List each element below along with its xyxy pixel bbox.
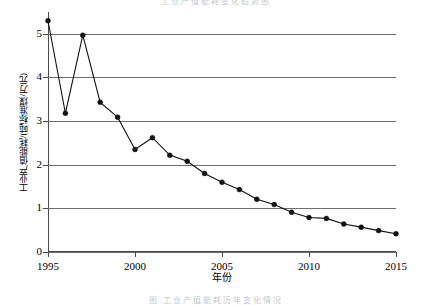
data-point <box>150 135 155 140</box>
data-point <box>341 222 346 227</box>
cropped-caption-top: 工业产值能耗变化趋势图 <box>0 0 431 6</box>
data-point <box>237 187 242 192</box>
x-axis-tick-mark <box>222 252 223 257</box>
y-axis-title-label: 工业产值能耗/(吨标准煤/万元) <box>18 73 28 192</box>
series-markers <box>46 18 399 236</box>
data-point <box>63 111 68 116</box>
x-axis-tick-mark <box>309 252 310 257</box>
data-point <box>220 180 225 185</box>
x-axis-tick-label: 2010 <box>289 260 329 272</box>
data-point <box>167 153 172 158</box>
data-point <box>202 171 207 176</box>
data-point <box>394 231 399 236</box>
x-axis-tick-label: 2000 <box>115 260 155 272</box>
y-axis-tick-label: 2 <box>26 159 42 170</box>
data-point <box>115 115 120 120</box>
data-series-layer <box>48 12 396 252</box>
series-line <box>48 21 396 234</box>
data-point <box>289 210 294 215</box>
data-point <box>359 225 364 230</box>
chart-figure: 工业产值能耗变化趋势图 工业产值能耗/(吨标准煤/万元) 012345 1995… <box>0 0 431 305</box>
data-point <box>46 18 51 23</box>
y-axis-tick-label: 1 <box>26 202 42 213</box>
x-axis-tick-mark <box>396 252 397 257</box>
data-point <box>324 216 329 221</box>
x-axis-tick-mark <box>135 252 136 257</box>
x-axis-tick-label: 1995 <box>28 260 68 272</box>
data-point <box>376 228 381 233</box>
data-point <box>185 159 190 164</box>
data-point <box>307 215 312 220</box>
y-axis-tick-label: 0 <box>26 246 42 257</box>
cropped-caption-bottom: 图 工业产值能耗历年变化情况 <box>0 296 431 305</box>
y-axis-tick-label: 3 <box>26 115 42 126</box>
y-axis-title: 工业产值能耗/(吨标准煤/万元) <box>16 12 30 252</box>
data-point <box>254 197 259 202</box>
plot-area: 012345 19952000200520102015 <box>48 12 396 252</box>
data-point <box>80 33 85 38</box>
x-axis-title: 年份 <box>48 272 396 284</box>
data-point <box>272 202 277 207</box>
y-axis-tick-label: 4 <box>26 71 42 82</box>
x-axis-tick-label: 2015 <box>376 260 416 272</box>
data-point <box>98 100 103 105</box>
y-axis-tick-label: 5 <box>26 28 42 39</box>
x-axis-tick-label: 2005 <box>202 260 242 272</box>
x-axis-tick-mark <box>48 252 49 257</box>
data-point <box>133 147 138 152</box>
